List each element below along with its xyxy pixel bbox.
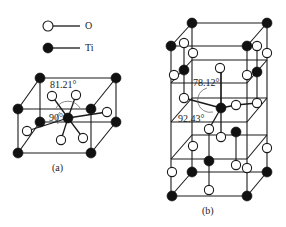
ti-atom — [13, 148, 23, 158]
o-atom — [262, 48, 271, 57]
o-atom — [231, 160, 240, 169]
o-atom — [56, 135, 65, 144]
ti-atom — [35, 117, 45, 127]
o-atom — [188, 141, 197, 150]
caption-a: (a) — [52, 162, 63, 174]
legend-ti-symbol — [43, 43, 53, 53]
legend-ti-label: Ti — [85, 42, 94, 53]
o-atom — [204, 124, 213, 133]
o-atom — [22, 126, 31, 135]
o-atom — [179, 38, 188, 47]
legend-o-symbol — [43, 21, 53, 31]
ti-atom — [179, 65, 189, 75]
caption-b: (b) — [202, 205, 214, 217]
angle-label-a1: 81.21° — [50, 79, 77, 90]
o-atom — [215, 63, 224, 72]
ti-atom — [204, 156, 214, 166]
o-atom — [216, 132, 225, 141]
ti-atom — [242, 191, 252, 201]
o-atom — [167, 167, 176, 176]
o-atom — [204, 185, 213, 194]
legend: O Ti — [43, 20, 94, 53]
o-atom — [78, 133, 87, 142]
ti-atom — [86, 148, 96, 158]
o-atom — [262, 143, 271, 152]
o-atom — [188, 48, 197, 57]
structure-a: 81.21° 90° (a) — [13, 73, 121, 174]
ti-atom — [252, 67, 262, 77]
legend-o-label: O — [85, 20, 92, 31]
o-atom — [231, 100, 240, 109]
ti-atom — [262, 18, 272, 28]
o-atom — [242, 70, 251, 79]
o-atom — [252, 98, 261, 107]
o-atom — [169, 70, 178, 79]
o-atom — [47, 91, 56, 100]
ti-atom — [242, 41, 252, 51]
ti-atom — [166, 41, 176, 51]
crystal-structure-diagram: O Ti 8 — [0, 0, 286, 227]
ti-atom — [13, 104, 23, 114]
ti-atom — [111, 117, 121, 127]
angle-label-b2: 92.43° — [178, 113, 205, 124]
ti-atom — [167, 191, 177, 201]
ti-atom — [187, 167, 197, 177]
structure-b: 78.12° 92.43° (b) — [166, 18, 272, 217]
o-atom — [179, 93, 188, 102]
ti-atom — [187, 18, 197, 28]
ti-atom — [111, 73, 121, 83]
ti-atom — [86, 104, 96, 114]
ti-atom — [35, 73, 45, 83]
angle-label-b1: 78.12° — [193, 77, 220, 88]
ti-atom-center — [63, 113, 73, 123]
o-atom — [252, 41, 261, 50]
angle-label-a2: 90° — [49, 112, 63, 123]
o-atom — [242, 163, 251, 172]
ti-atom — [262, 167, 272, 177]
ti-atom-center — [216, 103, 226, 113]
o-atom — [71, 90, 80, 99]
ti-atom — [231, 127, 241, 137]
o-atom — [102, 107, 111, 116]
